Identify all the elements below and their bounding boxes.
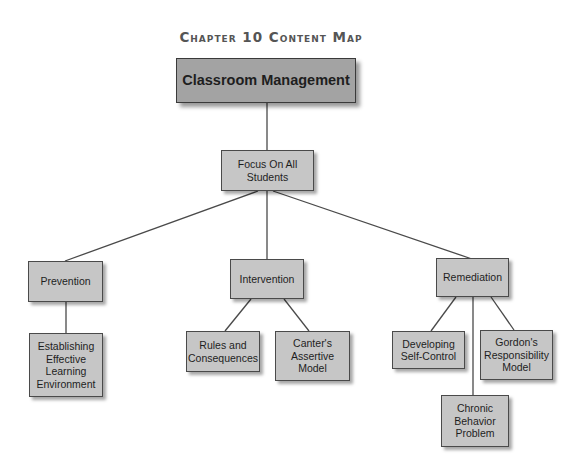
- edge-intervention-canter: [284, 299, 309, 331]
- node-label: Classroom Management: [182, 74, 350, 87]
- node-label: Establishing Effective Learning Environm…: [37, 340, 96, 390]
- node-classroom-management: Classroom Management: [176, 58, 356, 103]
- node-label: Developing Self-Control: [401, 338, 456, 363]
- edge-focus-remediation: [273, 191, 472, 259]
- node-gordons-responsibility-model: Gordon's Responsibility Model: [480, 330, 553, 380]
- node-remediation: Remediation: [436, 258, 509, 297]
- node-establishing-effective-learning-environment: Establishing Effective Learning Environm…: [29, 333, 103, 397]
- node-developing-self-control: Developing Self-Control: [392, 331, 465, 369]
- node-label: Gordon's Responsibility Model: [484, 336, 549, 374]
- node-label: Focus On All Students: [238, 158, 298, 183]
- node-label: Remediation: [443, 271, 502, 284]
- node-rules-and-consequences: Rules and Consequences: [186, 331, 260, 372]
- node-label: Chronic Behavior Problem: [454, 402, 495, 440]
- node-focus-on-all-students: Focus On All Students: [221, 150, 314, 191]
- node-intervention: Intervention: [230, 259, 304, 299]
- edge-remediation-developing: [431, 297, 456, 331]
- edge-focus-prevention: [65, 191, 258, 261]
- node-label: Prevention: [40, 275, 90, 288]
- node-canters-assertive-model: Canter's Assertive Model: [275, 331, 350, 381]
- node-chronic-behavior-problem: Chronic Behavior Problem: [441, 395, 509, 447]
- edge-intervention-rules: [225, 299, 251, 331]
- node-prevention: Prevention: [28, 261, 103, 302]
- edge-remediation-gordon: [491, 297, 514, 330]
- node-label: Canter's Assertive Model: [291, 337, 334, 375]
- node-label: Intervention: [240, 273, 295, 286]
- node-label: Rules and Consequences: [188, 339, 258, 364]
